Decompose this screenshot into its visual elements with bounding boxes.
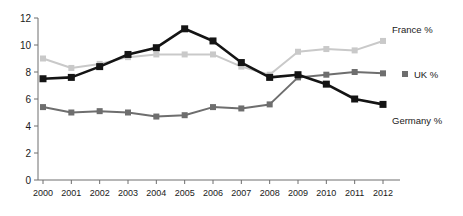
y-tick-label: 8	[25, 67, 31, 78]
chart-plot-area: 024681012 200020012002200320042005200620…	[0, 0, 463, 216]
x-tick-label: 2005	[175, 188, 195, 198]
legend-swatch-uk	[402, 71, 408, 77]
data-point-marker	[181, 25, 188, 32]
data-point-marker	[68, 65, 74, 71]
data-point-marker	[352, 47, 358, 53]
data-point-marker	[40, 104, 46, 110]
y-tick-label: 10	[20, 40, 32, 51]
data-point-marker	[96, 63, 103, 70]
data-point-marker	[68, 110, 74, 116]
y-tick-label: 4	[25, 121, 31, 132]
x-tick-label: 2001	[61, 188, 81, 198]
x-tick-label: 2006	[203, 188, 223, 198]
data-point-marker	[266, 74, 273, 81]
data-point-marker	[182, 51, 188, 57]
data-point-marker	[295, 49, 301, 55]
data-point-marker	[267, 101, 273, 107]
data-point-marker	[153, 44, 160, 51]
data-point-marker	[323, 81, 330, 88]
data-point-marker	[210, 37, 217, 44]
data-point-marker	[295, 71, 302, 78]
series-legend-label: France %	[392, 24, 433, 35]
data-point-marker	[323, 72, 329, 78]
data-point-marker	[97, 108, 103, 114]
data-point-marker	[182, 112, 188, 118]
data-point-marker	[380, 70, 386, 76]
legend: France %UK %Germany %	[392, 24, 443, 126]
data-point-marker	[68, 74, 75, 81]
y-tick-label: 12	[20, 13, 32, 24]
y-tick-label: 6	[25, 94, 31, 105]
x-tick-label: 2011	[345, 188, 364, 198]
data-point-marker	[323, 46, 329, 52]
data-point-marker	[125, 110, 131, 116]
x-axis: 2000200120022003200420052006200720082009…	[33, 180, 400, 198]
data-point-marker	[125, 51, 132, 58]
x-tick-label: 2007	[231, 188, 251, 198]
x-tick-label: 2003	[118, 188, 138, 198]
y-tick-label: 0	[25, 175, 31, 186]
x-tick-label: 2012	[373, 188, 393, 198]
x-tick-label: 2000	[33, 188, 53, 198]
x-tick-label: 2010	[316, 188, 336, 198]
data-point-marker	[210, 51, 216, 57]
data-point-marker	[40, 75, 47, 82]
data-point-marker	[352, 69, 358, 75]
x-tick-label: 2004	[146, 188, 166, 198]
data-point-marker	[210, 104, 216, 110]
data-point-marker	[153, 114, 159, 120]
y-axis: 024681012	[20, 13, 38, 186]
series-lines	[40, 25, 387, 119]
x-tick-label: 2008	[260, 188, 280, 198]
series-legend-label: UK %	[414, 69, 439, 80]
data-point-marker	[380, 38, 386, 44]
line-chart: 024681012 200020012002200320042005200620…	[0, 0, 463, 216]
x-tick-label: 2009	[288, 188, 308, 198]
y-tick-label: 2	[25, 148, 31, 159]
data-point-marker	[40, 56, 46, 62]
series-legend-label: Germany %	[392, 115, 443, 126]
data-point-marker	[380, 101, 387, 108]
x-tick-label: 2002	[90, 188, 110, 198]
data-point-marker	[238, 59, 245, 66]
data-point-marker	[238, 105, 244, 111]
data-point-marker	[153, 51, 159, 57]
data-point-marker	[351, 96, 358, 103]
